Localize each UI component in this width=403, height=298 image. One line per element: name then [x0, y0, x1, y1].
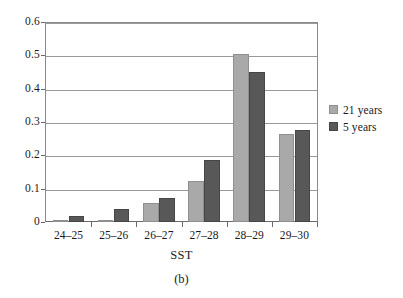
- figure-caption: (b): [45, 272, 318, 286]
- x-axis-tick: [227, 222, 228, 227]
- bar-group: [182, 23, 227, 222]
- legend-swatch-icon: [329, 122, 338, 131]
- bar[interactable]: [279, 134, 295, 222]
- x-axis-label: 29–30: [267, 229, 321, 242]
- y-axis-label: 0.2: [0, 149, 40, 161]
- legend: 21 years 5 years: [329, 101, 382, 135]
- bar[interactable]: [69, 216, 85, 222]
- y-axis-tick: [41, 189, 45, 190]
- y-axis-label: 0.5: [0, 49, 40, 61]
- bar-group: [136, 23, 181, 222]
- y-axis-tick: [41, 55, 45, 56]
- bar[interactable]: [249, 72, 265, 222]
- bar[interactable]: [295, 130, 311, 222]
- bar[interactable]: [143, 203, 159, 222]
- legend-item[interactable]: 21 years: [329, 101, 382, 118]
- bar-group: [227, 23, 272, 222]
- figure-panel: 0.6 0.5 0.4 0.3 0.2 0.1 0 24–2525–2626–2…: [0, 0, 403, 298]
- bar-group: [272, 23, 317, 222]
- x-axis-tick: [317, 222, 318, 227]
- y-axis-tick: [41, 22, 45, 23]
- y-axis-label: 0.4: [0, 83, 40, 95]
- legend-item[interactable]: 5 years: [329, 118, 382, 135]
- y-axis-label: 0: [0, 216, 40, 228]
- x-axis-tick: [136, 222, 137, 227]
- bar[interactable]: [159, 198, 175, 222]
- x-axis-tick: [91, 222, 92, 227]
- y-axis-tick: [41, 222, 45, 223]
- bar[interactable]: [114, 209, 130, 222]
- legend-item-label: 21 years: [343, 104, 382, 116]
- x-axis-tick: [272, 222, 273, 227]
- y-axis-label: 0.6: [0, 16, 40, 28]
- legend-swatch-icon: [329, 105, 338, 114]
- x-axis-title: SST: [45, 248, 318, 262]
- bar[interactable]: [98, 220, 114, 222]
- x-axis-tick: [182, 222, 183, 227]
- bar[interactable]: [53, 220, 69, 222]
- bar[interactable]: [188, 181, 204, 222]
- bar[interactable]: [204, 160, 220, 222]
- y-axis-label: 0.3: [0, 116, 40, 128]
- y-axis-tick: [41, 122, 45, 123]
- bars-layer: [46, 23, 317, 222]
- bar[interactable]: [233, 54, 249, 222]
- y-axis-tick: [41, 89, 45, 90]
- bar-group: [91, 23, 136, 222]
- y-axis-label: 0.1: [0, 183, 40, 195]
- bar-group: [46, 23, 91, 222]
- y-axis-tick: [41, 155, 45, 156]
- legend-item-label: 5 years: [343, 121, 377, 133]
